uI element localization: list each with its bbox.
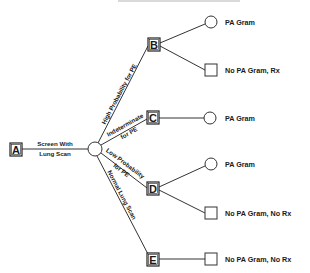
outcome-e-no-pa-gram-label: No PA Gram, No Rx bbox=[225, 255, 291, 264]
root-edge-label-line1: Screen With bbox=[37, 140, 73, 147]
decision-tree-diagram: A Screen With Lung Scan High Probability… bbox=[0, 0, 310, 273]
outcome-d-pa-gram-circle bbox=[205, 158, 217, 170]
node-d-label: D bbox=[149, 183, 157, 195]
outcome-b-pa-gram-label: PA Gram bbox=[225, 18, 255, 27]
node-a: A bbox=[10, 143, 22, 156]
outcome-d-no-pa-gram-label: No PA Gram, No Rx bbox=[225, 209, 291, 218]
outcome-b-no-pa-gram-box bbox=[205, 64, 217, 76]
outcome-c-pa-gram-label: PA Gram bbox=[225, 114, 255, 123]
root-edge-label-line2: Lung Scan bbox=[39, 150, 71, 157]
edge-b-pa bbox=[160, 24, 205, 43]
clipped-title bbox=[118, 0, 240, 2]
outcome-d-no-pa-gram-box bbox=[205, 207, 217, 219]
node-e: E bbox=[147, 253, 159, 266]
edge-d-no bbox=[159, 190, 205, 213]
outcome-d-pa-gram-label: PA Gram bbox=[225, 160, 255, 169]
node-d: D bbox=[147, 182, 159, 195]
node-b-label: B bbox=[150, 39, 158, 51]
outcome-b-no-pa-gram-label: No PA Gram, Rx bbox=[225, 66, 280, 75]
edge-d-pa bbox=[159, 166, 205, 187]
outcome-c-pa-gram-circle bbox=[204, 112, 216, 124]
node-a-label: A bbox=[12, 144, 20, 156]
node-c: C bbox=[147, 111, 159, 124]
outcome-e-no-pa-gram-box bbox=[205, 253, 217, 265]
outcome-b-pa-gram-circle bbox=[205, 16, 217, 28]
node-e-label: E bbox=[149, 254, 156, 266]
chance-node-lung-scan bbox=[88, 142, 102, 156]
branch-label-e: Normal Lung Scan bbox=[106, 169, 138, 221]
node-b: B bbox=[148, 38, 160, 51]
node-c-label: C bbox=[149, 112, 157, 124]
edge-b-no bbox=[160, 46, 205, 70]
